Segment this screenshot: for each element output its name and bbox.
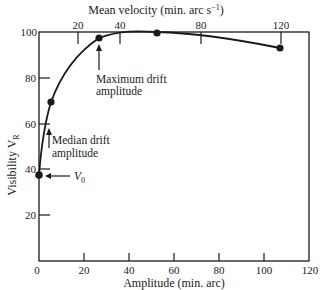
visibility-chart: 0 20 40 60 80 100 120 Amplitude (min. ar… bbox=[0, 0, 324, 290]
x-tick-120: 120 bbox=[302, 264, 319, 276]
top-tick-120: 120 bbox=[273, 19, 290, 31]
y-tick-20: 20 bbox=[25, 209, 37, 221]
median-drift-annotation: Median drift amplitude bbox=[46, 128, 111, 160]
x-tick-40: 40 bbox=[124, 264, 136, 276]
v0-annotation: V0 bbox=[45, 170, 85, 185]
top-axis-title: Mean velocity (min. arc s−1) bbox=[88, 3, 223, 17]
x-axis-title: Amplitude (min. arc) bbox=[123, 276, 225, 290]
top-tick-20: 20 bbox=[73, 19, 85, 31]
y-tick-60: 60 bbox=[25, 118, 37, 130]
median-label-line2: amplitude bbox=[52, 147, 98, 160]
max-drift-annotation: Maximum drift amplitude bbox=[96, 44, 167, 98]
y-tick-40: 40 bbox=[25, 163, 37, 175]
y-tick-100: 100 bbox=[21, 26, 38, 38]
x-axis-ticks bbox=[84, 253, 264, 261]
y-tick-80: 80 bbox=[25, 72, 37, 84]
y-axis-title: Visibility VR bbox=[5, 134, 21, 196]
data-point-1 bbox=[35, 171, 43, 179]
x-tick-60: 60 bbox=[169, 264, 181, 276]
y-axis-tick-labels: 20 40 60 80 100 bbox=[21, 26, 38, 221]
data-point-4 bbox=[153, 29, 160, 36]
max-arrowhead-icon bbox=[96, 44, 102, 51]
median-label-line1: Median drift bbox=[52, 134, 111, 146]
x-axis-tick-labels: 0 20 40 60 80 100 120 bbox=[34, 264, 319, 276]
x-tick-0: 0 bbox=[34, 264, 40, 276]
max-label-line2: amplitude bbox=[96, 85, 142, 98]
data-point-2 bbox=[47, 98, 54, 105]
x-tick-20: 20 bbox=[79, 264, 91, 276]
max-label-line1: Maximum drift bbox=[96, 73, 167, 85]
v0-label: V0 bbox=[74, 170, 85, 185]
top-tick-80: 80 bbox=[196, 19, 208, 31]
y-axis-ticks bbox=[39, 78, 50, 215]
top-axis-tick-labels: 20 40 80 120 bbox=[73, 19, 290, 31]
chart-canvas: 0 20 40 60 80 100 120 Amplitude (min. ar… bbox=[0, 0, 324, 290]
x-tick-80: 80 bbox=[214, 264, 226, 276]
v0-arrowhead-icon bbox=[45, 173, 51, 179]
top-tick-40: 40 bbox=[115, 19, 127, 31]
x-tick-100: 100 bbox=[256, 264, 273, 276]
data-point-3 bbox=[95, 34, 102, 41]
data-point-5 bbox=[276, 44, 283, 51]
